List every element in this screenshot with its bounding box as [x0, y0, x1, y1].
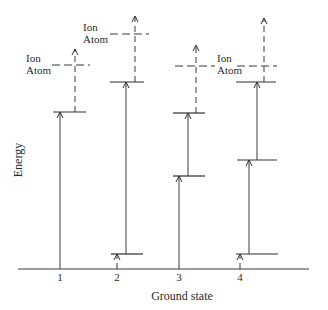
atom-label: Atom [83, 33, 109, 45]
atom-label: Atom [26, 64, 52, 76]
ion-label: Ion [217, 52, 232, 64]
ion-label: Ion [26, 52, 41, 64]
energy-level-diagram: Energy 1 2 3 4 Ground state Ion Atom Ion… [0, 0, 328, 310]
tick-label-2: 2 [114, 271, 120, 283]
column-4 [236, 18, 278, 269]
column-1: Ion Atom [26, 49, 90, 269]
tick-label-1: 1 [57, 271, 63, 283]
column-2: Ion Atom [83, 16, 149, 269]
tick-label-3: 3 [176, 271, 182, 283]
tick-label-4: 4 [237, 271, 243, 283]
column-3: Ion Atom [173, 45, 243, 269]
x-axis-label: Ground state [151, 289, 213, 303]
y-axis-label: Energy [11, 143, 25, 177]
ion-label: Ion [83, 21, 98, 33]
